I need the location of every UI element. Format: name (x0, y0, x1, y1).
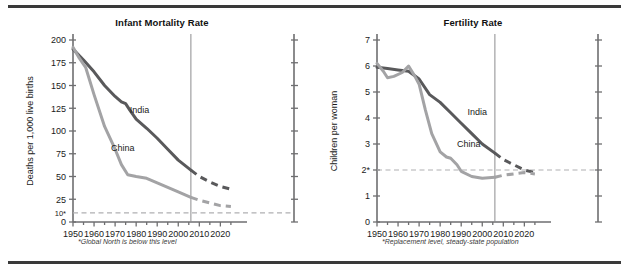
y-axis-title: Children per woman (329, 91, 339, 172)
series-line-projected (191, 170, 231, 189)
y-tick-label: 175 (51, 58, 66, 68)
chart-panel-infant-mortality: Infant Mortality Rate 025507510012515017… (6, 10, 318, 260)
chart-plot-infant-mortality: 025507510012515017520010*195019601970198… (6, 10, 318, 260)
y-tick-label: 1 (365, 191, 370, 201)
y-tick-label: 50 (56, 172, 66, 182)
y-tick-label-extra: 10* (55, 209, 66, 218)
y-tick-label: 200 (51, 35, 66, 45)
y-tick-label: 0 (61, 217, 66, 227)
bottom-rule (8, 261, 621, 264)
y-tick-label: 5 (365, 87, 370, 97)
chart-plot-fertility-rate: 012*345671950196019701980199020002010202… (320, 10, 626, 260)
series-china: China (377, 63, 535, 178)
chart-panel-fertility-rate: Fertility Rate 012*345671950196019701980… (320, 10, 626, 260)
series-label-india: India (130, 105, 150, 115)
x-tick-label: 2020 (210, 229, 230, 239)
series-china: China (73, 47, 231, 206)
series-line-projected (495, 173, 535, 178)
chart-footnote-fertility-rate: *Replacement level, steady-state populat… (382, 238, 519, 245)
y-tick-label: 4 (365, 113, 370, 123)
series-label-china: China (111, 143, 135, 153)
y-axis-title: Deaths per 1,000 live births (25, 76, 35, 186)
y-tick-label: 2* (361, 165, 370, 175)
y-tick-label: 0 (365, 217, 370, 227)
y-tick-label: 100 (51, 126, 66, 136)
series-line-observed (377, 63, 495, 178)
series-label-india: India (468, 107, 488, 117)
y-tick-label: 6 (365, 61, 370, 71)
y-tick-label: 25 (56, 195, 66, 205)
y-tick-label: 150 (51, 81, 66, 91)
y-tick-label: 3 (365, 139, 370, 149)
figure-container: Infant Mortality Rate 025507510012515017… (0, 0, 629, 274)
x-tick-label: 2010 (189, 229, 209, 239)
series-label-china: China (457, 139, 481, 149)
y-tick-label: 7 (365, 35, 370, 45)
series-india: India (73, 49, 231, 189)
y-tick-label: 125 (51, 104, 66, 114)
series-line-projected (191, 197, 231, 206)
y-tick-label: 75 (56, 149, 66, 159)
top-rule (8, 5, 621, 8)
series-india: India (377, 67, 535, 172)
chart-footnote-infant-mortality: *Global North is below this level (78, 238, 176, 245)
